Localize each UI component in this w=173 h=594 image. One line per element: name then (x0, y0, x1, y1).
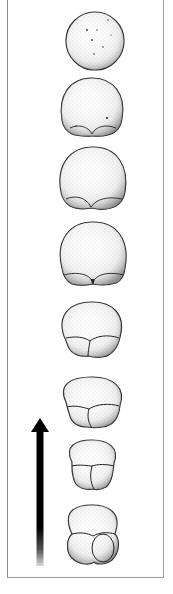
stage-2-early-furrow (61, 78, 123, 136)
stage-1-egg (66, 12, 124, 70)
stage-3-furrow-deepening (60, 147, 126, 209)
stage-4-lobes-forming (60, 222, 126, 285)
progression-arrow-icon (31, 418, 49, 566)
stage-8-final (68, 505, 119, 564)
stage-5-lobes-enlarging (62, 302, 121, 357)
stage-6-lobes-prominent (64, 377, 122, 428)
stage-7-late (69, 440, 115, 490)
embryo-stage-illustration (0, 0, 173, 594)
